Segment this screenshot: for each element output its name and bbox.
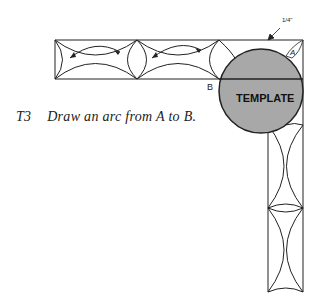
instruction-caption: T3 Draw an arc from A to B. bbox=[16, 109, 196, 125]
border-diagram: A 1/4" B TEMPLATE bbox=[0, 0, 321, 304]
template-label: TEMPLATE bbox=[236, 92, 294, 104]
svg-text:A: A bbox=[289, 48, 295, 57]
arrowhead-icons bbox=[70, 48, 201, 58]
dimension-arrow bbox=[268, 28, 280, 40]
point-b-label: B bbox=[207, 82, 213, 92]
dimension-label: 1/4" bbox=[282, 17, 292, 23]
template-circle bbox=[219, 49, 303, 133]
instruction-text: Draw an arc from A to B. bbox=[47, 109, 196, 124]
step-number: T3 bbox=[16, 109, 31, 124]
point-a-marker: A bbox=[286, 40, 303, 58]
